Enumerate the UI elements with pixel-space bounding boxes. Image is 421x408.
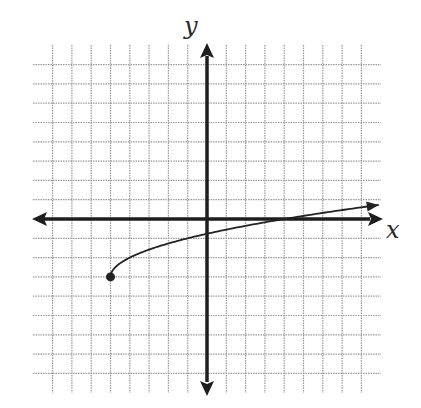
x-axis-label: x (386, 218, 400, 242)
curve-path (111, 205, 379, 277)
coordinate-plane (0, 0, 421, 408)
function-curve (106, 202, 379, 282)
y-axis-up-arrow-icon (200, 43, 214, 58)
closed-endpoint-dot (106, 272, 115, 281)
x-axis-right-arrow-icon (368, 212, 383, 226)
axes (32, 43, 383, 396)
y-axis-label: y (184, 14, 198, 38)
curve-arrow-icon (366, 202, 379, 212)
y-axis-down-arrow-icon (200, 381, 214, 396)
